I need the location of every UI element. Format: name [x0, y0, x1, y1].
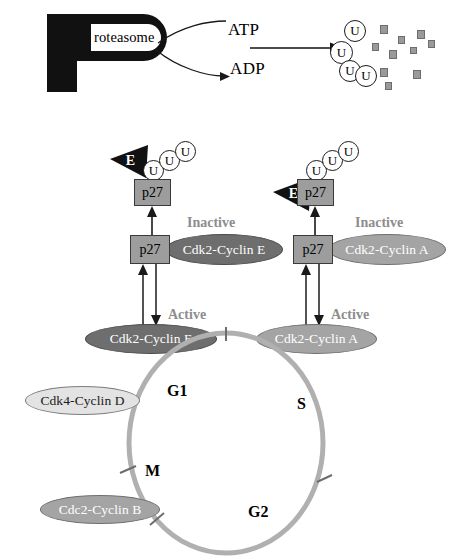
active-label-cyclin-e: Active [168, 307, 206, 323]
peptide-fragment [380, 68, 388, 77]
inactive-label-cyclin-a: Inactive [355, 215, 403, 231]
ubiquitin-chain-3-cyclin-a: U [338, 141, 359, 162]
peptide-fragment [417, 30, 425, 39]
peptide-fragment [389, 50, 397, 59]
p27-ubiquitinated-cyclin-a: p27 [297, 179, 334, 206]
binding-arrows-cyclin-a [299, 264, 329, 326]
cycle-circle [129, 333, 323, 553]
adp-label: ADP [230, 59, 265, 79]
binding-arrows-cyclin-e [136, 264, 166, 326]
atp-label: ATP [228, 20, 259, 40]
inactive-complex-cyclin-e: Cdk2-Cyclin E [165, 234, 283, 265]
inactive-complex-label: Cdk2-Cyclin A [345, 242, 428, 258]
phase-label-m: M [145, 462, 160, 480]
inactive-complex-label: Cdk2-Cyclin E [183, 242, 266, 258]
complex-cdk4-cyclin-d: Cdk4-Cyclin D [25, 386, 140, 415]
complex-cdc2-cyclin-b: Cdc2-Cyclin B [40, 495, 160, 524]
peptide-fragment [428, 40, 435, 48]
cell-cycle-ring [106, 325, 346, 557]
peptide-fragment [413, 70, 421, 79]
peptide-fragment [410, 47, 417, 54]
inactive-label-cyclin-e: Inactive [187, 215, 235, 231]
atp-curve [158, 21, 226, 43]
proteasome-logo: roteasome [47, 14, 167, 92]
peptide-fragment [398, 36, 405, 44]
complex-cdk4-cyclin-d-label: Cdk4-Cyclin D [40, 393, 124, 409]
released-ubiquitin-1: U [344, 20, 366, 42]
peptide-fragment [380, 25, 388, 34]
p27-bound-cyclin-a: p27 [293, 235, 333, 264]
proteasome-label: roteasome [91, 29, 155, 46]
phase-label-g2: G2 [248, 503, 268, 521]
released-ubiquitin-4: U [355, 65, 377, 87]
p27-bound-cyclin-e: p27 [130, 235, 170, 264]
diagram-canvas: roteasome ATP ADP U U U U E U U U p27 [0, 0, 454, 558]
peptide-fragment [385, 82, 392, 90]
active-label-cyclin-a: Active [331, 307, 369, 323]
adp-arrowhead [220, 72, 230, 81]
adp-curve [156, 50, 224, 76]
ubiquitin-chain-3-cyclin-e: U [175, 141, 196, 162]
e3-ligase-label: E [126, 153, 135, 169]
inactive-complex-cyclin-a: Cdk2-Cyclin A [328, 234, 446, 265]
phase-label-s: S [297, 395, 306, 413]
complex-cdc2-cyclin-b-label: Cdc2-Cyclin B [59, 502, 142, 518]
p27-ubiquitinated-cyclin-e: p27 [134, 179, 171, 206]
peptide-fragment [372, 43, 379, 51]
phase-label-g1: G1 [167, 382, 187, 400]
